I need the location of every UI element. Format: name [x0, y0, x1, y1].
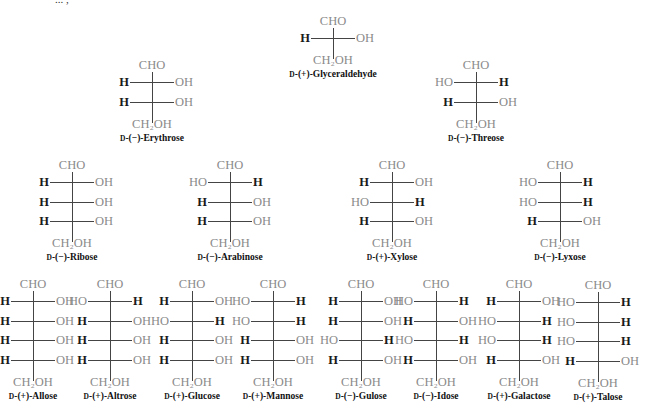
right-substituent: OH [94, 195, 113, 209]
right-substituent: OH [174, 75, 193, 89]
horizontal-bond [497, 321, 541, 322]
left-substituent: HO [435, 75, 454, 89]
hydroxymethyl-group: CH₂OH [90, 375, 130, 389]
sugar-name: Gulose [359, 391, 387, 401]
sugar-name: Lyxose [558, 252, 586, 262]
left-substituent: H [77, 353, 88, 367]
optical-rotation-sign: (−) [129, 133, 141, 143]
left-substituent: H [240, 333, 251, 347]
aldehyde-group: CHO [506, 277, 532, 291]
optical-rotation-sign: (+) [17, 391, 29, 401]
horizontal-bond [370, 182, 414, 183]
aldehyde-group: CHO [423, 277, 449, 291]
horizontal-bond [50, 182, 94, 183]
hydroxymethyl-group: CH₂OH [341, 375, 381, 389]
horizontal-bond [170, 301, 214, 302]
horizontal-bond [370, 202, 414, 203]
horizontal-bond [11, 360, 55, 361]
right-substituent: OH [458, 353, 477, 367]
right-substituent: OH [214, 333, 233, 347]
horizontal-bond [170, 340, 214, 341]
left-substituent: HO [557, 295, 576, 309]
horizontal-bond [11, 321, 55, 322]
left-substituent: H [159, 294, 170, 308]
sugar-name-label: D-(+)-Xylose [367, 252, 417, 263]
carbon-chain-bond [476, 72, 477, 123]
left-substituent: HO [557, 334, 576, 348]
horizontal-bond [251, 321, 295, 322]
right-substituent: H [582, 195, 593, 209]
horizontal-bond [88, 301, 132, 302]
right-substituent: H [295, 314, 306, 328]
optical-rotation-sign: (−) [457, 133, 469, 143]
carbon-chain-bond [519, 291, 520, 381]
right-substituent: H [541, 314, 552, 328]
left-substituent: HO [519, 195, 538, 209]
right-substituent: OH [252, 214, 271, 228]
hydroxymethyl-group: CH₂OH [416, 375, 456, 389]
sugar-name: Mannose [266, 391, 303, 401]
hydroxymethyl-group: CH₂OH [372, 236, 412, 250]
left-substituent: H [328, 353, 339, 367]
sugar-name-label: D-(−)-Gulose [335, 391, 387, 402]
aldehyde-group: CHO [585, 278, 611, 292]
right-substituent: OH [132, 314, 151, 328]
aldehyde-group: CHO [379, 158, 405, 172]
optical-rotation-sign: (−) [422, 391, 434, 401]
sugar-name-label: D-(−)-Erythrose [120, 133, 184, 144]
right-substituent: OH [620, 354, 639, 368]
horizontal-bond [311, 38, 355, 39]
left-substituent: HO [351, 195, 370, 209]
left-substituent: HO [320, 333, 339, 347]
horizontal-bond [11, 340, 55, 341]
horizontal-bond [50, 221, 94, 222]
sugar-name-label: D-(−)-Arabinose [197, 252, 262, 263]
sugar-name: Allose [32, 391, 57, 401]
sugar-name-label: D-(+)-Glyceraldehyde [289, 69, 376, 80]
sugar-name-label: D-(+)-Galactose [487, 391, 550, 402]
right-substituent: OH [55, 333, 74, 347]
hydroxymethyl-group: CH₂OH [313, 53, 353, 67]
hydroxymethyl-group: CH₂OH [210, 236, 250, 250]
left-substituent: H [197, 195, 208, 209]
sugar-name-label: D-(+)-Glucose [164, 391, 220, 402]
horizontal-bond [576, 361, 620, 362]
right-substituent: OH [414, 214, 433, 228]
right-substituent: OH [214, 353, 233, 367]
horizontal-bond [538, 221, 582, 222]
horizontal-bond [208, 182, 252, 183]
optical-rotation-sign: (+) [298, 69, 310, 79]
sugar-name: Erythrose [144, 133, 184, 143]
right-substituent: OH [214, 294, 233, 308]
right-substituent: OH [383, 314, 402, 328]
carbon-chain-bond [110, 291, 111, 381]
horizontal-bond [497, 340, 541, 341]
sugar-name-label: D-(+)-Altrose [84, 391, 137, 402]
left-substituent: H [39, 195, 50, 209]
horizontal-bond [497, 301, 541, 302]
left-substituent: H [328, 294, 339, 308]
horizontal-bond [339, 321, 383, 322]
right-substituent: H [252, 175, 263, 189]
aldehyde-group: CHO [59, 158, 85, 172]
hydroxymethyl-group: CH₂OH [253, 375, 293, 389]
horizontal-bond [497, 360, 541, 361]
aldehyde-group: CHO [260, 277, 286, 291]
aldehyde-group: CHO [547, 158, 573, 172]
left-substituent: HO [478, 333, 497, 347]
right-substituent: OH [355, 31, 374, 45]
sugar-name: Glucose [188, 391, 220, 401]
horizontal-bond [170, 321, 214, 322]
left-substituent: H [328, 314, 339, 328]
carbon-chain-bond [598, 292, 599, 382]
horizontal-bond [170, 360, 214, 361]
right-substituent: OH [55, 353, 74, 367]
sugar-name: Talose [597, 392, 623, 402]
sugar-name-label: D-(−)-Idose [413, 391, 458, 402]
hydroxymethyl-group: CH₂OH [172, 375, 212, 389]
aldehyde-group: CHO [20, 277, 46, 291]
right-substituent: H [295, 294, 306, 308]
left-substituent: H [359, 175, 370, 189]
right-substituent: H [620, 334, 631, 348]
horizontal-bond [339, 360, 383, 361]
